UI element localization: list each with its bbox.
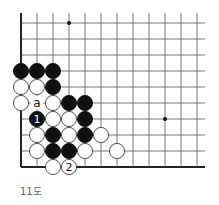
black-stone-icon bbox=[61, 143, 76, 158]
white-stone-icon bbox=[45, 111, 60, 126]
black-stone-icon bbox=[77, 111, 92, 126]
black-stone-icon bbox=[29, 63, 44, 78]
star-point-icon bbox=[67, 21, 71, 25]
black-stone-icon bbox=[77, 127, 92, 142]
stone-move-number: 1 bbox=[34, 113, 41, 126]
white-stone-icon bbox=[109, 143, 124, 158]
white-stone-icon bbox=[61, 111, 76, 126]
go-board: 12 a bbox=[0, 0, 219, 180]
white-stone-icon bbox=[45, 159, 60, 174]
white-stone-icon bbox=[77, 143, 92, 158]
white-stone-icon bbox=[29, 79, 44, 94]
star-point-icon bbox=[163, 117, 167, 121]
white-stone-icon bbox=[45, 95, 60, 110]
black-stone-icon bbox=[45, 143, 60, 158]
black-stone-icon bbox=[77, 95, 92, 110]
board-marks: a bbox=[31, 96, 43, 110]
black-stone-icon bbox=[45, 63, 60, 78]
white-stone-icon bbox=[61, 127, 76, 142]
diagram-caption: 11도 bbox=[20, 183, 42, 198]
white-stone-icon bbox=[29, 143, 44, 158]
stone-move-number: 2 bbox=[66, 161, 73, 174]
black-stone-icon bbox=[45, 127, 60, 142]
black-stone-icon bbox=[61, 95, 76, 110]
white-stone-icon bbox=[29, 127, 44, 142]
black-stone-icon bbox=[45, 79, 60, 94]
white-stone-icon bbox=[93, 127, 108, 142]
black-stone-icon bbox=[13, 63, 28, 78]
white-stone-icon bbox=[13, 79, 28, 94]
white-stone-icon bbox=[13, 95, 28, 110]
point-label: a bbox=[33, 96, 40, 110]
